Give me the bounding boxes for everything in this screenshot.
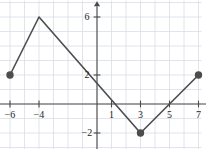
data-point-marker xyxy=(7,72,13,78)
x-axis-tick-label: 1 xyxy=(109,110,114,120)
data-point-marker xyxy=(196,72,202,78)
y-axis-tick-label: 2 xyxy=(85,70,90,80)
x-axis-tick-label: −6 xyxy=(5,110,16,120)
graph-figure: −6−4135762−2xy xyxy=(0,0,206,149)
coordinate-plane xyxy=(0,0,206,149)
x-axis-tick-label: 5 xyxy=(167,110,172,120)
x-axis-tick-label: −4 xyxy=(34,110,45,120)
grid-lines xyxy=(0,1,202,150)
x-axis-tick-label: 7 xyxy=(196,110,201,120)
y-axis-arrowhead xyxy=(94,1,100,6)
x-axis-tick-label: 3 xyxy=(138,110,143,120)
y-axis-tick-label: 6 xyxy=(85,12,90,22)
data-point-marker xyxy=(138,130,144,136)
y-axis-tick-label: −2 xyxy=(82,128,93,138)
